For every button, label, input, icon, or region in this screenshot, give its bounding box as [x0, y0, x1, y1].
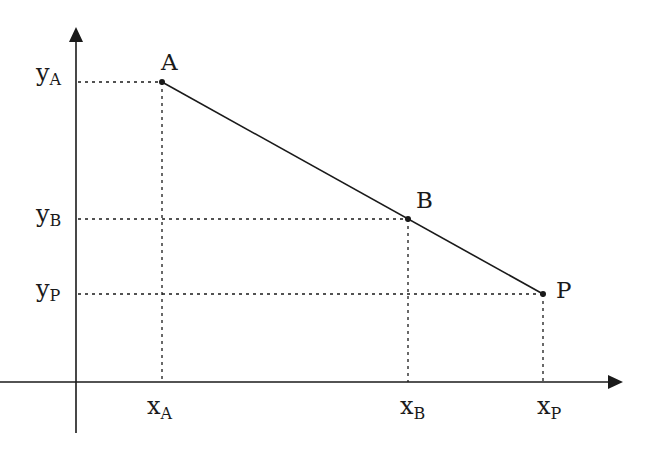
x-label-A: xA	[147, 392, 173, 423]
point-A	[159, 79, 165, 85]
y-label-P: yP	[35, 275, 61, 305]
y-label-A: yA	[35, 59, 62, 89]
segment-AP	[162, 82, 543, 294]
point-label-B: B	[416, 187, 433, 213]
x-label-B: xB	[400, 392, 425, 423]
y-axis-arrow-icon	[69, 27, 83, 42]
point-P	[540, 291, 546, 297]
point-label-P: P	[556, 277, 571, 303]
y-label-B: yB	[35, 200, 61, 230]
coordinate-diagram: A B P yA yB yP xA xB xP	[0, 0, 649, 461]
point-label-A: A	[160, 49, 178, 75]
guide-lines	[78, 82, 543, 382]
point-B	[405, 216, 411, 222]
x-label-P: xP	[537, 392, 562, 423]
x-axis-arrow-icon	[608, 375, 623, 389]
